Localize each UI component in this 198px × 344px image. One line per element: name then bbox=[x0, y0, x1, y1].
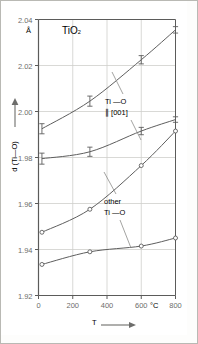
x-tick-label: 200 bbox=[66, 301, 79, 310]
data-point-marker bbox=[40, 230, 44, 234]
ann-other-line1: other bbox=[104, 196, 125, 207]
x-unit-label: °C bbox=[150, 301, 158, 310]
data-point-marker bbox=[40, 262, 44, 266]
y-tick-label: 2.04 bbox=[18, 16, 33, 25]
x-tick-label: 600 bbox=[135, 301, 148, 310]
ann-parallel-001-line2: ∥ [001] bbox=[105, 107, 128, 118]
gridlines bbox=[39, 20, 176, 296]
error-bar bbox=[39, 124, 44, 134]
y-tick-label: 1.92 bbox=[18, 292, 33, 301]
x-tick-label: 400 bbox=[101, 301, 114, 310]
y-axis-arrow-icon bbox=[9, 98, 21, 128]
ann-parallel-001: Ti —O ∥ [001] bbox=[105, 96, 128, 118]
error-bar bbox=[87, 96, 92, 106]
annotation-leader-line bbox=[131, 120, 141, 140]
data-point-marker bbox=[174, 236, 178, 240]
annotation-leader-line bbox=[120, 220, 131, 248]
chart-title-subscript: 2 bbox=[78, 29, 81, 35]
chart-title-text: TiO bbox=[62, 25, 78, 36]
y-unit-label: Å bbox=[26, 26, 31, 35]
data-curve bbox=[42, 120, 176, 159]
y-tick-label: 1.96 bbox=[18, 200, 33, 209]
ann-parallel-001-line1: Ti —O bbox=[105, 96, 128, 107]
data-curves bbox=[42, 30, 176, 265]
chart-title: TiO2 bbox=[62, 20, 81, 38]
data-point-marker bbox=[88, 207, 92, 211]
y-axis-label: d (Ti—O) bbox=[10, 126, 19, 188]
error-bar bbox=[139, 127, 144, 134]
data-point-marker bbox=[139, 244, 143, 248]
tick-marks bbox=[35, 20, 176, 300]
y-tick-label: 1.98 bbox=[18, 154, 33, 163]
data-point-marker bbox=[88, 250, 92, 254]
data-markers bbox=[39, 27, 178, 267]
ann-other: other Ti —O bbox=[104, 196, 125, 218]
x-axis-arrow-icon bbox=[101, 320, 137, 330]
data-point-marker bbox=[139, 164, 143, 168]
data-curve bbox=[42, 238, 176, 264]
figure-page: 1.921.941.961.982.002.022.04020040060080… bbox=[0, 0, 198, 344]
x-axis-label: T bbox=[92, 318, 97, 327]
x-tick-label: 800 bbox=[169, 301, 182, 310]
error-bar bbox=[173, 117, 178, 123]
y-tick-label: 1.94 bbox=[18, 246, 33, 255]
x-tick-label: 0 bbox=[36, 301, 40, 310]
data-point-marker bbox=[174, 129, 178, 133]
error-bar bbox=[139, 56, 144, 64]
annotation-leader-line bbox=[104, 172, 116, 194]
chart-canvas: 1.921.941.961.982.002.022.04020040060080… bbox=[0, 0, 198, 344]
ann-other-line2: Ti —O bbox=[104, 207, 125, 218]
y-tick-label: 2.02 bbox=[18, 62, 33, 71]
